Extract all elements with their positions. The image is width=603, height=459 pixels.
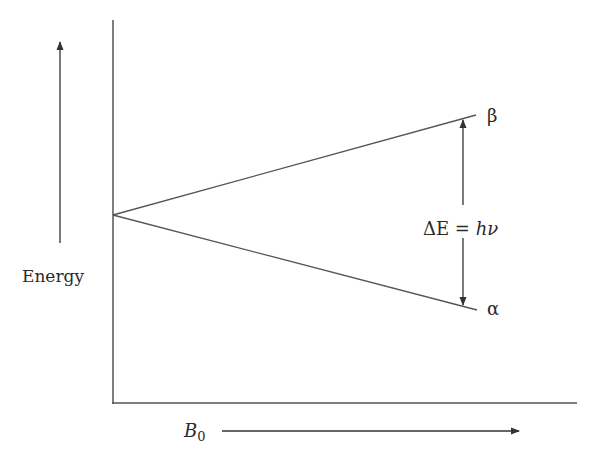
b0-label: B0 bbox=[183, 420, 206, 444]
alpha-label: α bbox=[487, 298, 499, 319]
delta-e-label: ΔE = hν bbox=[423, 218, 498, 239]
b0-main: B bbox=[183, 420, 197, 441]
energy-diagram: Energy β α ΔE = hν B0 bbox=[0, 0, 603, 459]
delta-e-prefix: ΔE = bbox=[423, 218, 476, 239]
beta-label: β bbox=[487, 105, 497, 126]
beta-level-line bbox=[113, 115, 476, 215]
energy-label: Energy bbox=[22, 266, 84, 286]
frequency-nu: ν bbox=[487, 218, 498, 239]
b0-subscript: 0 bbox=[197, 429, 205, 444]
planck-h: h bbox=[476, 218, 488, 239]
